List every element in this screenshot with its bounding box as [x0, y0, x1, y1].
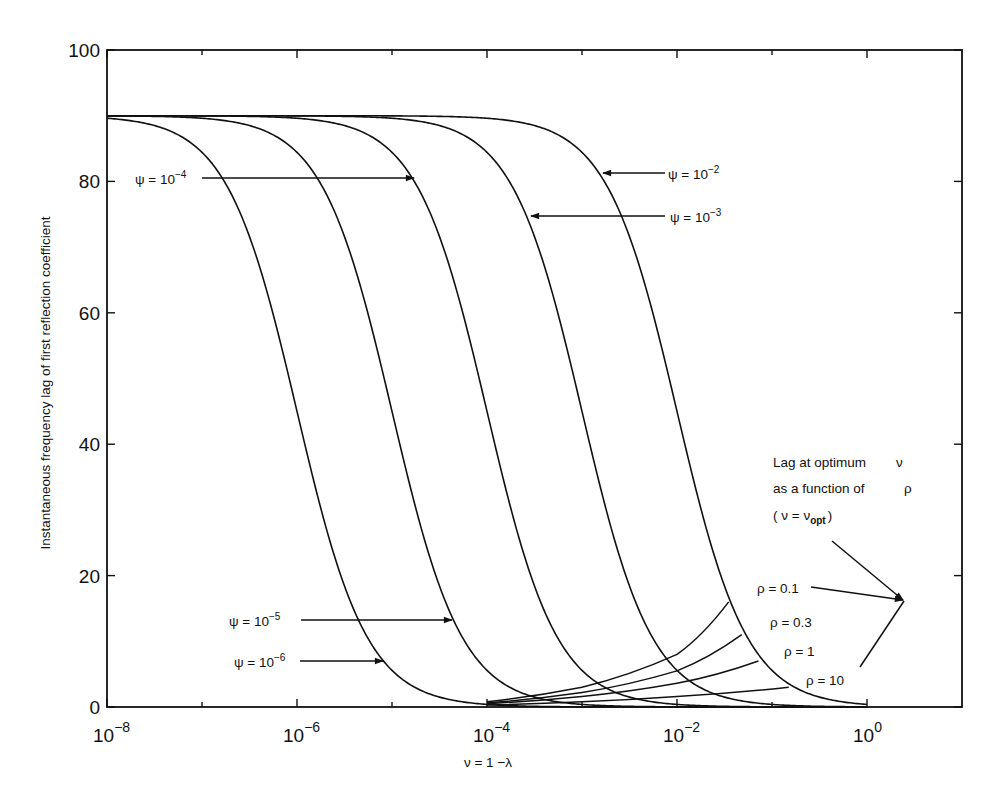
rho-curves [487, 602, 789, 705]
rho-label: ρ = 1 [784, 644, 815, 659]
axis-ticks [107, 50, 962, 707]
optimum-pointer-bottom [860, 601, 904, 667]
optimum-note-line1: Lag at optimum [773, 455, 866, 470]
rho-curve [487, 602, 729, 702]
psi-curve [107, 116, 867, 707]
x-tick-labels: 10−810−610−410−2100 [93, 719, 882, 746]
y-tick-label: 40 [79, 434, 100, 455]
plot-frame [107, 50, 962, 707]
x-axis-title: ν = 1 −λ [464, 755, 512, 770]
x-tick-label: 10−6 [283, 719, 320, 746]
y-tick-label: 0 [89, 697, 100, 718]
rho-label: ρ = 0.3 [770, 615, 812, 630]
rho-label: ρ = 0.1 [757, 581, 799, 596]
y-tick-label: 80 [79, 171, 100, 192]
x-tick-label: 10−4 [473, 719, 510, 746]
rho-symbol: ρ [904, 481, 912, 496]
x-tick-label: 100 [853, 719, 882, 746]
psi-label: ψ = 10−2 [668, 164, 720, 182]
optimum-note-close: ) [828, 508, 833, 523]
svg-text:as a function of ρ: as a function of ρ [773, 481, 912, 496]
x-tick-label: 10−2 [663, 719, 700, 746]
svg-text:( ν = νopt): ( ν = νopt) [773, 508, 832, 526]
optimum-note-line2: as a function of [773, 481, 865, 496]
y-tick-label: 60 [79, 303, 100, 324]
y-tick-label: 20 [79, 566, 100, 587]
y-tick-label: 100 [68, 40, 100, 61]
psi-label: ψ = 10−3 [670, 207, 722, 225]
nu-symbol: ν [896, 455, 903, 470]
x-tick-label: 10−8 [93, 719, 130, 746]
psi-label: ψ = 10−6 [234, 652, 286, 670]
annotations: ψ = 10−4ψ = 10−2ψ = 10−3ψ = 10−5ψ = 10−6… [135, 164, 844, 688]
psi-label: ψ = 10−5 [229, 611, 281, 629]
optimum-note: Lag at optimum ν as a function of ρ ( ν … [773, 455, 912, 667]
psi-curves [107, 116, 867, 707]
y-axis-title: Instantaneous frequency lag of first ref… [38, 216, 53, 549]
lag-vs-nu-chart: 020406080100 10−810−610−410−2100 ψ = 10−… [0, 0, 994, 799]
y-tick-labels: 020406080100 [68, 40, 100, 718]
svg-text:Lag at optimum ν: Lag at optimum ν [773, 455, 903, 470]
rho-label: ρ = 10 [806, 673, 844, 688]
opt-subscript: opt [810, 515, 826, 526]
optimum-note-line3: ( ν = ν [773, 508, 810, 523]
psi-label: ψ = 10−4 [135, 169, 187, 187]
